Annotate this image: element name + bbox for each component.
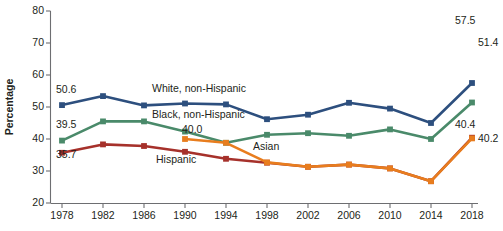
series-label-white: White, non-Hispanic xyxy=(152,82,246,94)
x-tick-2014: 2014 xyxy=(419,209,443,221)
data-point-marker xyxy=(346,100,352,106)
data-point-marker xyxy=(100,142,106,148)
data-point-marker xyxy=(59,138,65,144)
x-tick-1986: 1986 xyxy=(132,209,156,221)
y-tick-40: 40 xyxy=(32,132,44,144)
data-point-marker xyxy=(100,119,106,125)
data-point-marker xyxy=(469,80,475,86)
data-point-marker xyxy=(182,101,188,107)
value-label-white-start: 50.6 xyxy=(56,83,77,95)
data-point-marker xyxy=(305,112,311,118)
chart-canvas: Percentage 80 70 60 50 40 30 20 xyxy=(0,0,503,231)
value-label-black-end: 51.4 xyxy=(478,36,499,48)
data-point-marker xyxy=(223,102,229,108)
x-tick-marks xyxy=(62,204,472,209)
x-tick-2002: 2002 xyxy=(296,209,320,221)
y-tick-60: 60 xyxy=(32,68,44,80)
x-tick-2006: 2006 xyxy=(337,209,361,221)
data-point-marker xyxy=(59,102,65,108)
series-black-non-hispanic xyxy=(59,100,475,146)
x-tick-1978: 1978 xyxy=(50,209,74,221)
line-chart: Percentage 80 70 60 50 40 30 20 xyxy=(0,0,503,231)
data-point-marker xyxy=(141,103,147,109)
x-tick-1982: 1982 xyxy=(91,209,115,221)
y-axis-title: Percentage xyxy=(3,79,15,136)
x-tick-1994: 1994 xyxy=(214,209,238,221)
value-label-asian-end: 40.2 xyxy=(478,132,499,144)
y-tick-50: 50 xyxy=(32,100,44,112)
data-point-marker xyxy=(100,93,106,99)
y-tick-80: 80 xyxy=(32,4,44,16)
series-label-black: Black, non-Hispanic xyxy=(152,108,245,120)
data-point-marker xyxy=(346,133,352,139)
series-label-asian: Asian xyxy=(253,140,279,152)
value-label-black-start: 39.5 xyxy=(56,118,77,130)
data-point-marker xyxy=(387,127,393,133)
value-label-hispanic-start: 35.7 xyxy=(56,148,77,160)
data-point-marker xyxy=(182,136,188,142)
y-tick-20: 20 xyxy=(32,196,44,208)
series-layer xyxy=(59,80,475,184)
data-point-marker xyxy=(428,136,434,142)
data-point-marker xyxy=(387,166,393,172)
series-label-hispanic: Hispanic xyxy=(156,153,196,165)
data-point-marker xyxy=(141,119,147,125)
y-tick-70: 70 xyxy=(32,36,44,48)
x-tick-1990: 1990 xyxy=(173,209,197,221)
data-point-marker xyxy=(469,100,475,106)
value-label-white-end: 57.5 xyxy=(455,14,476,26)
value-label-asian-start: 40.0 xyxy=(182,123,203,135)
data-point-marker xyxy=(387,106,393,112)
y-tick-30: 30 xyxy=(32,164,44,176)
data-point-marker xyxy=(428,120,434,126)
data-point-marker xyxy=(346,162,352,168)
data-point-marker xyxy=(223,156,229,162)
series-white-non-hispanic xyxy=(59,80,475,126)
data-point-marker xyxy=(305,164,311,170)
data-point-marker xyxy=(264,132,270,138)
data-point-marker xyxy=(223,140,229,146)
x-tick-2018: 2018 xyxy=(460,209,484,221)
data-point-marker xyxy=(305,130,311,136)
data-point-marker xyxy=(141,143,147,149)
x-tick-1998: 1998 xyxy=(255,209,279,221)
cropped-caption-strip xyxy=(0,222,503,231)
x-tick-2010: 2010 xyxy=(378,209,402,221)
data-point-marker xyxy=(264,160,270,166)
data-point-marker xyxy=(428,178,434,184)
data-point-marker xyxy=(264,116,270,122)
data-point-marker xyxy=(469,136,475,142)
y-tick-marks xyxy=(46,11,51,203)
value-label-hispanic-end: 40.4 xyxy=(455,118,476,130)
